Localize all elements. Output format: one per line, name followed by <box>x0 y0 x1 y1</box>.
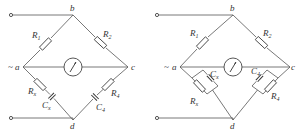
left-bridge: R1 R2 Rx Cx R4 C4 <box>8 3 135 130</box>
node-d-label: d <box>70 121 75 130</box>
label-r4: R4 <box>110 88 120 99</box>
label-c4: C4 <box>96 102 105 113</box>
label-r1: R1 <box>189 28 199 39</box>
resistor-r2 <box>255 36 268 48</box>
circuit-figure: R1 R2 Rx Cx R4 C4 <box>0 0 299 130</box>
resistor-rx <box>193 80 205 93</box>
label-rx: Rx <box>27 86 37 97</box>
node-a-label: a <box>15 62 20 72</box>
source-symbol: ~ <box>8 62 13 72</box>
source-symbol: ~ <box>164 62 169 72</box>
label-c4: C4 <box>251 66 260 77</box>
terminal-top <box>9 13 12 16</box>
node-c-label: c <box>131 62 135 72</box>
label-r2: R2 <box>262 28 272 39</box>
terminal-bottom <box>9 116 12 119</box>
label-rx: Rx <box>189 96 199 107</box>
label-r4: R4 <box>270 91 280 102</box>
resistor-r1 <box>39 38 51 50</box>
label-cx: Cx <box>42 100 51 111</box>
node-c-label: c <box>291 62 295 72</box>
label-r1: R1 <box>31 30 41 41</box>
label-r2: R2 <box>102 29 112 40</box>
label-cx: Cx <box>210 69 219 80</box>
node-a-label: a <box>172 62 177 72</box>
node-b-label: b <box>70 3 75 13</box>
terminal-bottom <box>155 116 158 119</box>
resistor-rx <box>34 78 46 90</box>
right-bridge: R1 R2 Cx Rx <box>155 3 295 130</box>
terminal-top <box>155 13 158 16</box>
node-b-label: b <box>230 3 235 13</box>
node-d-label: d <box>230 121 235 130</box>
